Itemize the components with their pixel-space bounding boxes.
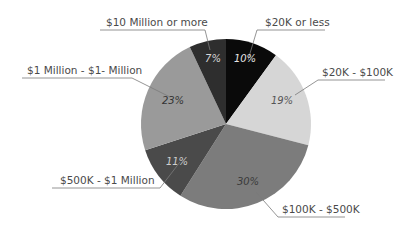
slice-pct-10m-or-more: 7% — [205, 53, 221, 64]
slice-label-20k-or-less: $20K or less — [265, 16, 330, 28]
leader-20k-100k — [295, 80, 385, 95]
slice-pct-500k-1m: 11% — [166, 156, 188, 167]
slice-pct-20k-or-less: 10% — [234, 53, 256, 64]
slice-pct-100k-500k: 30% — [237, 176, 259, 187]
slice-label-100k-500k: $100K - $500K — [282, 203, 361, 215]
pie-slices — [141, 39, 311, 209]
slice-label-500k-1m: $500K - $1 Million — [60, 174, 155, 186]
slice-label-20k-100k: $20K - $100K — [322, 66, 394, 78]
pie-chart: 10% 19% 30% 11% 23% 7% $20K or less $20K… — [0, 0, 405, 227]
slice-label-10m-or-more: $10 Million or more — [106, 16, 208, 28]
slice-pct-20k-100k: 19% — [271, 95, 293, 106]
slice-label-1m-10m: $1 Million - $1- Million — [27, 64, 142, 76]
slice-pct-1m-10m: 23% — [162, 95, 184, 106]
